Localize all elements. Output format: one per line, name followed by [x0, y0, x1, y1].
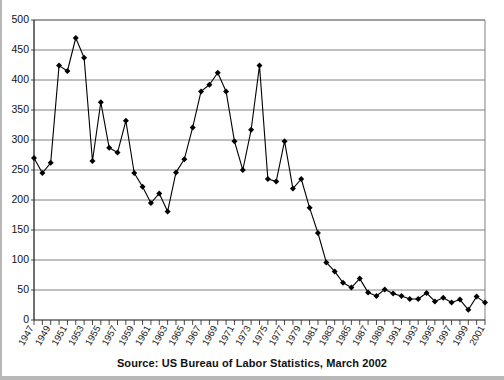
data-point-1971: [231, 138, 237, 144]
chart-canvas: 050100150200250300350400450500 194719491…: [0, 0, 504, 380]
data-point-1973: [248, 127, 254, 133]
y-tick-label-150: 150: [11, 223, 29, 235]
x-tick-label-1961: 1961: [133, 324, 153, 348]
bottom-edge-shadow: [0, 376, 504, 380]
x-tick-label-1949: 1949: [32, 324, 52, 348]
y-tick-label-250: 250: [11, 163, 29, 175]
x-tick-label-1973: 1973: [233, 324, 253, 348]
gridlines: [34, 20, 485, 290]
data-point-1980: [307, 205, 313, 211]
x-tick-label-1959: 1959: [116, 324, 136, 348]
x-tick-label-1993: 1993: [400, 324, 420, 348]
x-tick-label-1979: 1979: [283, 324, 303, 348]
data-point-1966: [190, 124, 196, 130]
data-point-1977: [282, 138, 288, 144]
x-tick-label-1985: 1985: [333, 324, 353, 348]
x-tick-label-1989: 1989: [366, 324, 386, 348]
data-point-1950: [56, 63, 62, 69]
y-tick-label-400: 400: [11, 73, 29, 85]
y-tick-label-50: 50: [17, 283, 29, 295]
left-edge-shadow: [0, 0, 2, 380]
y-tick-label-100: 100: [11, 253, 29, 265]
data-point-1947: [31, 155, 37, 161]
data-point-1992: [407, 296, 413, 302]
data-series-line: [34, 38, 485, 310]
x-tick-label-1971: 1971: [216, 324, 236, 348]
data-point-1960: [140, 184, 146, 190]
x-tick-label-1975: 1975: [249, 324, 269, 348]
data-point-1957: [115, 150, 121, 156]
x-tick-label-1981: 1981: [300, 324, 320, 348]
y-tick-label-300: 300: [11, 133, 29, 145]
y-tick-label-0: 0: [23, 313, 29, 325]
x-tick-label-2001: 2001: [467, 324, 487, 348]
data-point-1963: [165, 208, 171, 214]
chart-figure: 050100150200250300350400450500 194719491…: [0, 0, 504, 380]
x-tick-label-1987: 1987: [350, 324, 370, 348]
x-tick-label-1967: 1967: [183, 324, 203, 348]
chart-caption: Source: US Bureau of Labor Statistics, M…: [0, 357, 504, 369]
data-point-1976: [273, 178, 279, 184]
data-point-1996: [440, 295, 446, 301]
x-tick-label-1965: 1965: [166, 324, 186, 348]
y-tick-label-450: 450: [11, 43, 29, 55]
x-tick-label-1947: 1947: [16, 324, 36, 348]
data-point-1955: [98, 99, 104, 105]
x-tick-label-1995: 1995: [417, 324, 437, 348]
data-point-1956: [106, 145, 112, 151]
data-point-1972: [240, 167, 246, 173]
data-point-1953: [81, 55, 87, 61]
x-tick-label-1951: 1951: [49, 324, 69, 348]
data-point-1990: [390, 291, 396, 297]
x-tick-label-1953: 1953: [66, 324, 86, 348]
x-tick-label-1997: 1997: [433, 324, 453, 348]
x-tick-label-1991: 1991: [383, 324, 403, 348]
y-tick-label-200: 200: [11, 193, 29, 205]
x-tick-label-1963: 1963: [149, 324, 169, 348]
data-point-1959: [131, 170, 137, 176]
data-point-1997: [449, 300, 455, 306]
data-point-1970: [223, 88, 229, 94]
data-point-1974: [257, 63, 263, 69]
data-point-markers: [31, 35, 488, 313]
x-tick-label-1977: 1977: [266, 324, 286, 348]
data-point-1981: [315, 230, 321, 236]
y-axis-tick-labels: 050100150200250300350400450500: [11, 13, 34, 325]
data-point-1958: [123, 118, 129, 124]
data-point-1951: [64, 68, 70, 74]
data-point-1954: [89, 158, 95, 164]
x-tick-label-1955: 1955: [82, 324, 102, 348]
data-point-1965: [181, 156, 187, 162]
data-point-1991: [398, 293, 404, 299]
data-point-1975: [265, 176, 271, 182]
y-tick-label-500: 500: [11, 13, 29, 25]
x-tick-label-1999: 1999: [450, 324, 470, 348]
data-point-1952: [73, 35, 79, 41]
x-tick-label-1957: 1957: [99, 324, 119, 348]
x-tick-label-1969: 1969: [199, 324, 219, 348]
series-polyline: [34, 38, 485, 310]
x-tick-label-1983: 1983: [316, 324, 336, 348]
x-axis-tick-labels: 1947194919511953195519571959196119631965…: [16, 324, 487, 348]
y-tick-label-350: 350: [11, 103, 29, 115]
